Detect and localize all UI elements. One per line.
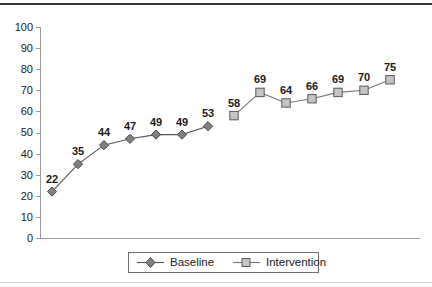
data-point-label: 75 [384, 61, 396, 73]
y-tick-label: 30 [21, 169, 33, 181]
data-point-diamond-icon [99, 141, 108, 150]
y-tick-label: 80 [21, 63, 33, 75]
y-tick-label: 10 [21, 211, 33, 223]
data-point-square-icon [282, 99, 290, 107]
data-point-square-icon [230, 111, 238, 119]
y-axis-ticks: 0102030405060708090100 [15, 21, 41, 244]
data-point-square-icon [334, 88, 342, 96]
square-icon [242, 259, 250, 267]
data-point-square-icon [256, 88, 264, 96]
data-point-square-icon [360, 86, 368, 94]
data-point-square-icon [386, 76, 394, 84]
data-point-label: 22 [46, 173, 58, 185]
data-point-square-icon [308, 95, 316, 103]
data-point-label: 47 [124, 120, 136, 132]
data-point-label: 69 [332, 73, 344, 85]
y-tick-label: 20 [21, 190, 33, 202]
data-point-label: 35 [72, 145, 84, 157]
y-tick-label: 40 [21, 148, 33, 160]
legend-label-baseline: Baseline [170, 256, 214, 268]
y-tick-label: 60 [21, 105, 33, 117]
legend-label-intervention: Intervention [266, 256, 326, 268]
chart-legend: Baseline Intervention [129, 253, 327, 273]
data-point-diamond-icon [125, 134, 134, 143]
y-tick-label: 0 [27, 232, 33, 244]
y-tick-label: 50 [21, 126, 33, 138]
data-point-diamond-icon [151, 130, 160, 139]
y-tick-label: 90 [21, 42, 33, 54]
data-point-label: 49 [150, 116, 162, 128]
data-point-diamond-icon [203, 122, 212, 131]
data-point-label: 66 [306, 80, 318, 92]
data-point-label: 53 [202, 107, 214, 119]
series-datalabels-baseline: 22354447494953 [46, 107, 214, 184]
chart-figure: 0102030405060708090100 22354447494953 58… [0, 0, 432, 287]
data-point-diamond-icon [177, 130, 186, 139]
line-chart: 0102030405060708090100 22354447494953 58… [0, 0, 432, 287]
data-point-label: 44 [98, 126, 111, 138]
y-tick-label: 70 [21, 84, 33, 96]
data-point-label: 49 [176, 116, 188, 128]
data-point-label: 58 [228, 97, 240, 109]
data-point-label: 69 [254, 73, 266, 85]
y-tick-label: 100 [15, 21, 33, 33]
data-point-label: 70 [358, 71, 370, 83]
data-point-label: 64 [280, 84, 293, 96]
